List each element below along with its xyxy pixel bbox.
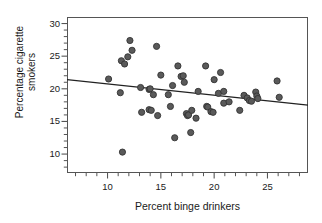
- y-axis-title: Percentage cigarette smokers: [14, 2, 38, 142]
- y-axis-tick-label: 20: [36, 83, 60, 94]
- x-axis-tick-label: 25: [254, 181, 280, 192]
- x-axis-title: Percent binge drinkers: [67, 200, 308, 212]
- y-axis-title-line-2: smokers: [26, 2, 38, 142]
- scatter-plot-figure: 1015202530 10152025 Percentage cigarette…: [0, 0, 322, 223]
- x-axis-tick-label: 10: [95, 181, 121, 192]
- x-axis-tick-label: 15: [148, 181, 174, 192]
- y-axis-tick-label: 25: [36, 50, 60, 61]
- y-axis-tick-label: 10: [36, 148, 60, 159]
- y-axis-tick-label: 30: [36, 18, 60, 29]
- y-axis-tick-label: 15: [36, 115, 60, 126]
- x-axis-tick-label: 20: [201, 181, 227, 192]
- y-axis-title-line-1: Percentage cigarette: [14, 2, 26, 142]
- data-points: [105, 37, 282, 155]
